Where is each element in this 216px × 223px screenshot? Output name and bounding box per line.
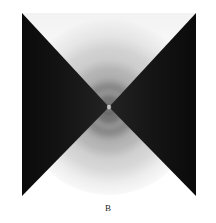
- interference-pattern-image: [22, 13, 196, 196]
- figure-caption: B: [0, 203, 216, 214]
- melatope-center-point: [107, 105, 111, 109]
- figure-container: B: [0, 0, 216, 223]
- pattern-canvas: [22, 13, 196, 196]
